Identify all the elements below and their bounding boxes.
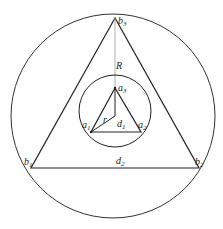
small-triangle (91, 88, 141, 132)
label-R: R (115, 60, 122, 71)
diagram-canvas: b3 R a3 r d1 a1 a2 b1 d2 b2 (0, 0, 223, 229)
point-a3 (114, 87, 116, 89)
label-d2: d2 (116, 155, 125, 168)
label-r: r (103, 114, 107, 125)
label-d1: d1 (117, 118, 126, 131)
label-a3: a3 (118, 82, 127, 95)
outer-circle (11, 14, 215, 218)
geometry-figure: b3 R a3 r d1 a1 a2 b1 d2 b2 (0, 0, 223, 229)
label-b2: b2 (195, 156, 204, 169)
label-b1: b1 (24, 156, 33, 169)
label-a1: a1 (82, 119, 91, 132)
